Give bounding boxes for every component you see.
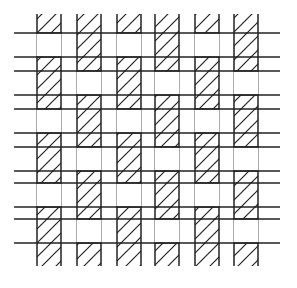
weft-over-cell (234, 72, 259, 94)
warp-over-cover-bottom (38, 170, 60, 172)
weft-over-cell (195, 34, 220, 56)
warp-over-cover-top (78, 108, 100, 110)
warp-over-cover-top (118, 146, 140, 148)
warp-over-cover-bottom (118, 242, 140, 244)
warp-over-cover-bottom (235, 206, 257, 208)
warp-over-cover-top (118, 70, 140, 72)
warp-over-cover-bottom (78, 206, 100, 208)
weft-over-cell (195, 184, 220, 206)
warp-over-cover-top (38, 146, 60, 148)
weft-over-cell (117, 184, 142, 206)
warp-over-cover-top (196, 218, 218, 220)
warp-over-cover-top (196, 70, 218, 72)
warp-over-cover-bottom (38, 94, 60, 96)
warp-over-cover-top (78, 32, 100, 34)
warp-over-cover-top (235, 182, 257, 184)
warp-over-cover-bottom (118, 94, 140, 96)
warp-over-cover-bottom (196, 242, 218, 244)
warp-over-cover-bottom (156, 132, 178, 134)
warp-over-cover-top (38, 218, 60, 220)
weft-over-cell (117, 110, 142, 132)
warp-over-cover-bottom (118, 170, 140, 172)
warp-over-cover-bottom (78, 132, 100, 134)
warp-over-cover-bottom (235, 132, 257, 134)
weft-over-cell (77, 220, 102, 242)
warp-over-cover-bottom (156, 206, 178, 208)
weft-over-cell (155, 220, 180, 242)
warp-over-cover-bottom (196, 170, 218, 172)
warp-over-cover-top (118, 218, 140, 220)
warp-over-cover-top (156, 32, 178, 34)
weft-over-cell (234, 148, 259, 170)
warp-over-cover-bottom (38, 242, 60, 244)
weave-diagram (0, 0, 297, 288)
weft-over-cell (234, 220, 259, 242)
warp-over-cover-bottom (235, 56, 257, 58)
weft-over-cell (155, 148, 180, 170)
warp-layer (37, 14, 258, 266)
warp-over-cover-bottom (78, 56, 100, 58)
warp-over-cover-top (78, 182, 100, 184)
weft-over-cell (77, 148, 102, 170)
weft-over-layer (37, 32, 259, 244)
weft-over-cell (37, 110, 62, 132)
warp-over-cover-top (196, 146, 218, 148)
weft-over-cell (77, 72, 102, 94)
warp-over-cover-top (156, 182, 178, 184)
warp-over-cover-top (235, 108, 257, 110)
weft-over-cell (37, 184, 62, 206)
warp-over-cover-top (156, 108, 178, 110)
weft-over-cell (195, 110, 220, 132)
warp-over-cover-top (38, 70, 60, 72)
weft-over-cell (37, 34, 62, 56)
warp-over-cover-bottom (156, 56, 178, 58)
weft-over-cell (117, 34, 142, 56)
warp-over-cover-top (235, 32, 257, 34)
weft-over-cell (155, 72, 180, 94)
warp-over-cover-bottom (196, 94, 218, 96)
